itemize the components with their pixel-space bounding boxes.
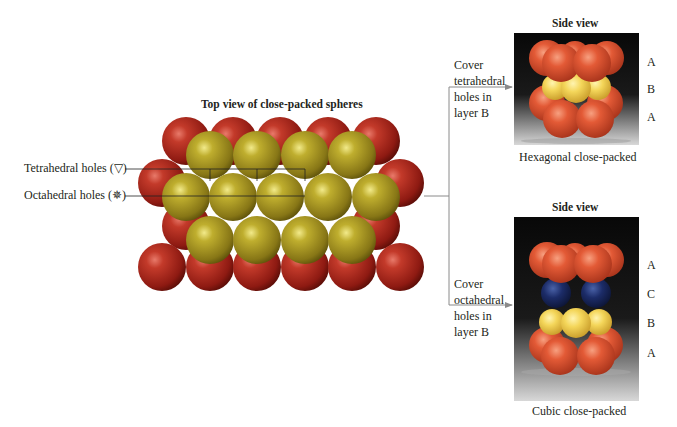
hcp-instruction-line: layer B xyxy=(454,105,505,121)
hcp-photo xyxy=(514,33,639,145)
ccp-instruction-line: layer B xyxy=(454,324,504,340)
ccp-layer-label-4: A xyxy=(647,346,656,361)
ccp-side-view-heading: Side view xyxy=(552,201,598,213)
tetrahedral-holes-label: Tetrahedral holes (▽) xyxy=(24,161,127,176)
ccp-caption: Cubic close-packed xyxy=(532,404,626,419)
ccp-instruction-line: Cover xyxy=(454,276,504,292)
hcp-instruction: Cover tetrahedral holes in layer B xyxy=(454,57,505,121)
hcp-layer-label-mid: B xyxy=(647,82,655,97)
hcp-layer-label-bottom: A xyxy=(647,110,656,125)
hcp-instruction-line: holes in xyxy=(454,89,505,105)
hcp-side-view-heading: Side view xyxy=(552,17,598,29)
ccp-instruction: Cover octahedral holes in layer B xyxy=(454,276,504,340)
ccp-layer-label-1: A xyxy=(647,258,656,273)
diagram-canvas xyxy=(0,0,677,427)
ccp-instruction-line: holes in xyxy=(454,308,504,324)
ccp-photo xyxy=(514,217,639,401)
octahedral-holes-label: Octahedral holes (✵) xyxy=(24,188,126,203)
ccp-instruction-line: octahedral xyxy=(454,292,504,308)
hcp-instruction-line: Cover xyxy=(454,57,505,73)
hcp-layer-label-top: A xyxy=(647,55,656,70)
top-view-title: Top view of close-packed spheres xyxy=(201,98,363,110)
hcp-instruction-line: tetrahedral xyxy=(454,73,505,89)
hcp-caption: Hexagonal close-packed xyxy=(519,150,637,165)
ccp-layer-label-2: C xyxy=(647,287,655,302)
ccp-layer-label-3: B xyxy=(647,316,655,331)
